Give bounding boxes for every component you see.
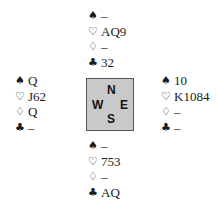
south-spades-cards: –	[101, 138, 108, 154]
compass-box: N W E S	[86, 78, 134, 131]
spade-icon: ♠	[88, 138, 101, 154]
south-spades-row: ♠ –	[88, 138, 121, 154]
north-hearts-row: ♡ AQ9	[88, 24, 126, 40]
club-icon: ♣	[161, 120, 174, 136]
north-spades-row: ♠ –	[88, 8, 126, 24]
west-diamonds-cards: Q	[28, 104, 37, 120]
east-hearts-cards: K1084	[174, 89, 209, 105]
club-icon: ♣	[88, 55, 101, 71]
diamond-icon: ♢	[15, 104, 28, 120]
diamond-icon: ♢	[88, 169, 101, 185]
south-hand: ♠ – ♡ 753 ♢ – ♣ AQ	[88, 138, 121, 200]
north-diamonds-cards: –	[101, 39, 108, 55]
north-clubs-row: ♣ 32	[88, 55, 126, 71]
east-spades-row: ♠ 10	[161, 73, 209, 89]
south-diamonds-cards: –	[101, 169, 108, 185]
east-diamonds-row: ♢ –	[161, 104, 209, 120]
north-spades-cards: –	[101, 8, 108, 24]
north-clubs-cards: 32	[101, 55, 114, 71]
heart-icon: ♡	[88, 24, 101, 40]
south-hearts-cards: 753	[101, 154, 121, 170]
heart-icon: ♡	[161, 89, 174, 105]
west-spades-cards: Q	[28, 73, 37, 89]
west-hand: ♠ Q ♡ J62 ♢ Q ♣ –	[15, 73, 46, 135]
west-hearts-cards: J62	[28, 89, 46, 105]
compass-south-label: S	[107, 113, 115, 125]
east-hand: ♠ 10 ♡ K1084 ♢ – ♣ –	[161, 73, 209, 135]
diamond-icon: ♢	[161, 104, 174, 120]
spade-icon: ♠	[161, 73, 174, 89]
west-hearts-row: ♡ J62	[15, 89, 46, 105]
north-hearts-cards: AQ9	[101, 24, 126, 40]
compass-west-label: W	[92, 99, 103, 111]
east-diamonds-cards: –	[174, 104, 181, 120]
compass-north-label: N	[107, 84, 116, 96]
north-hand: ♠ – ♡ AQ9 ♢ – ♣ 32	[88, 8, 126, 70]
heart-icon: ♡	[15, 89, 28, 105]
south-diamonds-row: ♢ –	[88, 169, 121, 185]
east-clubs-row: ♣ –	[161, 120, 209, 136]
east-clubs-cards: –	[174, 120, 181, 136]
south-clubs-row: ♣ AQ	[88, 185, 121, 201]
north-diamonds-row: ♢ –	[88, 39, 126, 55]
club-icon: ♣	[15, 120, 28, 136]
spade-icon: ♠	[88, 8, 101, 24]
compass-east-label: E	[120, 99, 128, 111]
west-spades-row: ♠ Q	[15, 73, 46, 89]
diamond-icon: ♢	[88, 39, 101, 55]
heart-icon: ♡	[88, 154, 101, 170]
west-clubs-row: ♣ –	[15, 120, 46, 136]
spade-icon: ♠	[15, 73, 28, 89]
east-spades-cards: 10	[174, 73, 187, 89]
south-clubs-cards: AQ	[101, 185, 120, 201]
south-hearts-row: ♡ 753	[88, 154, 121, 170]
club-icon: ♣	[88, 185, 101, 201]
west-clubs-cards: –	[28, 120, 35, 136]
east-hearts-row: ♡ K1084	[161, 89, 209, 105]
west-diamonds-row: ♢ Q	[15, 104, 46, 120]
